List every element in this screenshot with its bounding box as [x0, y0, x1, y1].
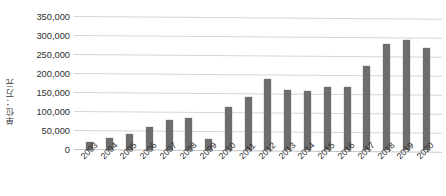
- bar-slot: [100, 17, 120, 150]
- bar-slot: [179, 17, 199, 150]
- x-tick-slot: 2017: [357, 152, 377, 196]
- x-tick-slot: 2003: [80, 152, 100, 196]
- x-tick-slot: 2007: [159, 152, 179, 196]
- bar-slot: [377, 17, 397, 150]
- x-tick-slot: 2019: [397, 152, 417, 196]
- y-axis-tick-label: 0: [18, 145, 70, 155]
- bar-slot: [258, 17, 278, 150]
- y-axis-tick-label: 250,000: [18, 50, 70, 60]
- bar-slot: [218, 17, 238, 150]
- x-axis-tick-labels: 2003200420052006200720082009201020112012…: [74, 152, 442, 196]
- plot-area: [74, 17, 442, 150]
- x-tick-slot: 2010: [218, 152, 238, 196]
- bar-slot: [317, 17, 337, 150]
- y-axis-tick-label: 200,000: [18, 69, 70, 79]
- bar-slot: [397, 17, 417, 150]
- y-axis-title: 单位：万元: [4, 58, 18, 144]
- x-tick-slot: 2013: [278, 152, 298, 196]
- x-tick-slot: 2015: [317, 152, 337, 196]
- y-axis-tick-label: 300,000: [18, 31, 70, 41]
- bar[interactable]: [363, 66, 370, 150]
- bar-slot: [139, 17, 159, 150]
- y-axis-tick-label: 100,000: [18, 107, 70, 117]
- x-tick-slot: 2014: [298, 152, 318, 196]
- bar-slot: [278, 17, 298, 150]
- bar-slot: [337, 17, 357, 150]
- x-tick-slot: 2020: [416, 152, 436, 196]
- x-tick-slot: 2006: [139, 152, 159, 196]
- bar-slot: [298, 17, 318, 150]
- bars-layer: [74, 17, 442, 150]
- bar[interactable]: [383, 44, 390, 150]
- bar-slot: [159, 17, 179, 150]
- bar-slot: [120, 17, 140, 150]
- bar-chart: 单位：万元 050,000100,000150,000200,000250,00…: [0, 0, 446, 196]
- x-tick-slot: 2009: [199, 152, 219, 196]
- x-tick-slot: 2016: [337, 152, 357, 196]
- bar-slot: [80, 17, 100, 150]
- x-tick-slot: 2011: [238, 152, 258, 196]
- bar-slot: [357, 17, 377, 150]
- bar[interactable]: [403, 40, 410, 150]
- y-axis-tick-labels: 050,000100,000150,000200,000250,000300,0…: [18, 0, 70, 196]
- bar-slot: [199, 17, 219, 150]
- bar-slot: [238, 17, 258, 150]
- x-tick-slot: 2012: [258, 152, 278, 196]
- y-axis-tick-label: 350,000: [18, 12, 70, 22]
- x-tick-slot: 2004: [100, 152, 120, 196]
- x-tick-slot: 2005: [120, 152, 140, 196]
- bar-slot: [416, 17, 436, 150]
- x-tick-slot: 2008: [179, 152, 199, 196]
- y-axis-tick-label: 150,000: [18, 88, 70, 98]
- bar[interactable]: [423, 48, 430, 150]
- x-tick-slot: 2018: [377, 152, 397, 196]
- y-axis-tick-label: 50,000: [18, 126, 70, 136]
